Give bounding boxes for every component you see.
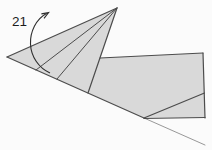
diagram-svg: 21 (0, 0, 212, 150)
part-label: 21 (12, 14, 27, 29)
figure-canvas: 21 (0, 0, 212, 150)
panel-face (88, 53, 205, 118)
baseline-extension (144, 118, 205, 145)
